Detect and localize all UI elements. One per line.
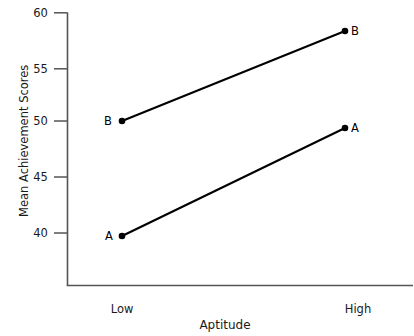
point-label-b-high: B [351,24,359,38]
point-label-a-high: A [351,121,359,135]
data-point-a-high [342,125,349,132]
series-line-a [122,128,345,236]
data-point-b-high [342,28,349,35]
x-axis-title: Aptitude [165,318,285,332]
x-tick-label-high: High [318,302,398,316]
y-tick-label-60: 60 [24,6,48,20]
x-tick-label-low: Low [82,302,162,316]
series-line-b [122,31,345,121]
point-label-b-low: B [104,114,112,128]
data-point-b-low [119,118,126,125]
chart-plot-area [0,0,414,336]
chart-figure: 60 55 50 45 40 Mean Achievement Scores L… [0,0,414,336]
point-label-a-low: A [105,229,113,243]
y-axis-ticks [54,13,68,233]
data-point-a-low [119,233,126,240]
y-tick-label-40: 40 [24,226,48,240]
y-axis-title: Mean Achievement Scores [17,65,31,217]
